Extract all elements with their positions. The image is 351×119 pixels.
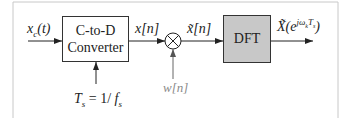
window-signal-label: w[n] (163, 81, 188, 94)
input-signal-label: xc(t) (27, 22, 50, 36)
dft-block: DFT (223, 15, 271, 63)
converter-label-line1: C-to-D (76, 22, 116, 40)
dft-label: DFT (234, 30, 260, 48)
c-to-d-converter-block: C-to-D Converter (62, 16, 129, 62)
dft-analysis-block-diagram: C-to-D Converter DFT xc(t) x[n] x̃[n] X̃… (0, 0, 351, 119)
output-signal-label: X̃(ejωkTs) (277, 20, 320, 34)
sampling-period-label: Ts = 1/ fs (74, 92, 122, 106)
windowed-signal-label: x̃[n] (187, 22, 211, 36)
sampled-signal-label: x[n] (135, 22, 159, 36)
converter-label-line2: Converter (68, 39, 124, 57)
multiplier-icon (165, 33, 181, 49)
